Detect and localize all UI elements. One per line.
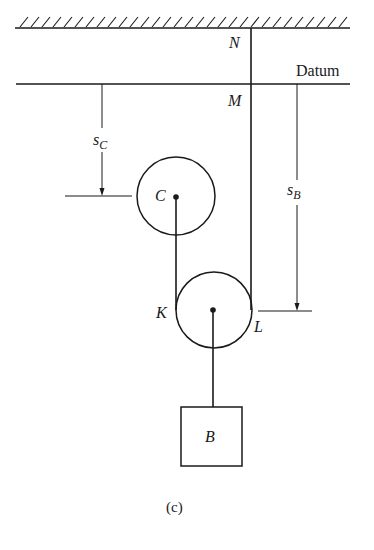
label-l: L bbox=[253, 318, 263, 335]
ceiling bbox=[15, 17, 350, 28]
label-block-b: B bbox=[205, 428, 215, 445]
label-s-b: sB bbox=[287, 181, 301, 202]
label-m: M bbox=[227, 92, 243, 109]
label-k: K bbox=[155, 304, 168, 321]
pulley-diagram: N M Datum sC sB C K L B (c) bbox=[0, 0, 374, 550]
label-n: N bbox=[228, 34, 241, 51]
figure-caption: (c) bbox=[166, 499, 183, 516]
dimension-s-b bbox=[258, 84, 312, 311]
pulley-c-axle bbox=[173, 194, 179, 200]
label-s-c: sC bbox=[93, 131, 108, 152]
datum-label: Datum bbox=[296, 62, 340, 79]
arrowhead-icon bbox=[100, 188, 105, 196]
arrowhead-icon bbox=[295, 303, 300, 311]
ceiling-hatching bbox=[20, 17, 347, 27]
label-pulley-c: C bbox=[155, 187, 166, 204]
